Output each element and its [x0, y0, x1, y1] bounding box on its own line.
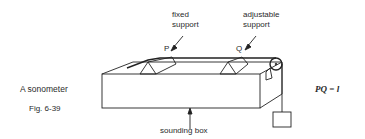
fixed-support [140, 62, 156, 74]
figure-title: A sonometer [20, 85, 68, 94]
point-p-label: P [164, 44, 169, 53]
sounding-box-front [102, 74, 260, 108]
fixed-support-label: fixed [172, 10, 189, 19]
figure-number: Fig. 6-39 [29, 104, 61, 113]
adjustable-support-label: adjustable [243, 10, 279, 19]
fixed-support-label-line2: support [172, 20, 199, 29]
sounding-box-label: sounding box [160, 126, 208, 135]
point-q-label: Q [236, 44, 242, 53]
adjustable-support-label-line2: support [243, 20, 270, 29]
adjustable-support [220, 62, 236, 74]
weight [273, 112, 291, 127]
equation: PQ = l [315, 85, 339, 94]
wire [127, 58, 276, 68]
